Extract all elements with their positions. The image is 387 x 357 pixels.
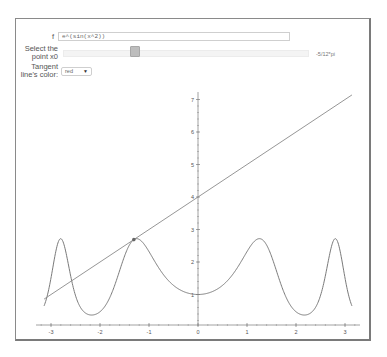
y-tick-label: 4: [191, 194, 194, 200]
x-tick-label: -3: [49, 329, 54, 335]
x-tick-label: 3: [343, 329, 346, 335]
x-tick-label: -2: [98, 329, 103, 335]
y-tick-label: 7: [191, 97, 194, 103]
x-tick-label: 1: [245, 329, 248, 335]
y-tick-label: 6: [191, 129, 194, 135]
x-tick-label: -1: [147, 329, 152, 335]
y-tick-label: 5: [191, 162, 194, 168]
axes: [36, 92, 360, 327]
plot-area: -3-2-101231234567: [0, 0, 387, 357]
x-tick-label: 0: [196, 329, 199, 335]
x-tick-label: 2: [294, 329, 297, 335]
y-tick-label: 2: [191, 259, 194, 265]
tangent-point: [132, 238, 136, 242]
y-tick-label: 3: [191, 227, 194, 233]
